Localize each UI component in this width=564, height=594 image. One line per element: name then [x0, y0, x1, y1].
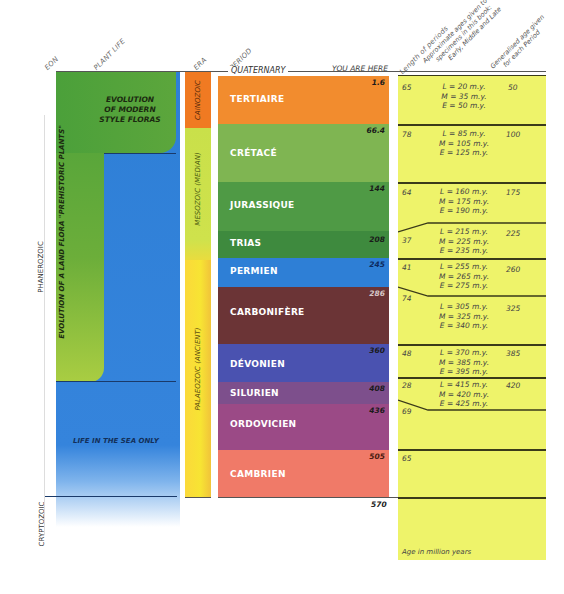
age-middle: M = 175 m.y. — [432, 197, 496, 207]
period-start-age: 144 — [369, 184, 385, 193]
age-late: L = 415 m.y. — [432, 380, 496, 390]
row-line-end — [398, 497, 546, 499]
period-start-age: 408 — [369, 384, 385, 393]
age-middle: M = 105 m.y. — [432, 139, 496, 149]
period-label: PERMIEN — [230, 266, 278, 276]
age-late: L = 160 m.y. — [432, 187, 496, 197]
period-start-age: 436 — [369, 406, 385, 415]
period-label: TERTIAIRE — [230, 94, 284, 104]
generalised-trias: 225 — [506, 229, 520, 238]
you-are-here-label: YOU ARE HERE — [332, 64, 388, 73]
period-silurien: SILURIEN 408 — [218, 382, 389, 404]
row-line-cambrien — [398, 449, 546, 451]
row-line-cretace — [398, 124, 546, 126]
age-early: E = 425 m.y. — [432, 399, 496, 409]
length-trias: 37 — [402, 236, 412, 245]
sea-only-text: LIFE IN THE SEA ONLY — [73, 437, 159, 445]
generalised-permien: 260 — [506, 265, 520, 274]
period-trias: TRIAS 208 — [218, 231, 389, 258]
ages-cretace: L = 85 m.y. M = 105 m.y. E = 125 m.y. — [432, 129, 496, 158]
period-carbonifere: CARBONIFÈRE 286 — [218, 287, 389, 344]
land-flora-divider — [56, 381, 176, 382]
row-line-jurassique — [398, 182, 546, 184]
era-mesozoic-label: MESOZOIC (MEDIAN) — [194, 139, 202, 239]
length-tertiaire: 65 — [402, 83, 412, 92]
eon-line — [44, 115, 45, 535]
period-label: SILURIEN — [230, 388, 279, 398]
footer-note: Age in million years — [402, 548, 471, 556]
period-start-age: 505 — [369, 452, 385, 461]
length-silurien: 28 — [402, 381, 412, 390]
generalised-carbonifere: 325 — [506, 304, 520, 313]
ages-silurien: L = 415 m.y. M = 420 m.y. E = 425 m.y. — [432, 380, 496, 409]
ages-jurassique: L = 160 m.y. M = 175 m.y. E = 190 m.y. — [432, 187, 496, 216]
generalised-devonien: 385 — [506, 349, 520, 358]
header-eon: EON — [43, 55, 60, 72]
ages-permien: L = 255 m.y. M = 265 m.y. E = 275 m.y. — [432, 262, 496, 291]
period-bottom-line — [218, 497, 398, 498]
length-permien: 41 — [402, 263, 412, 272]
length-carbonifere: 74 — [402, 294, 412, 303]
period-label: JURASSIQUE — [230, 200, 295, 210]
row-line-silurien — [398, 377, 546, 379]
modern-divider — [104, 153, 176, 154]
period-label: DÉVONIEN — [230, 359, 285, 369]
era-palaeozoic-label: PALAEOZOIC (ANCIENT) — [194, 314, 202, 424]
period-jurassique: JURASSIQUE 144 — [218, 182, 389, 231]
length-cretace: 78 — [402, 130, 412, 139]
age-middle: M = 35 m.y. — [432, 92, 496, 102]
length-ordovicien: 69 — [402, 407, 412, 416]
ages-trias: L = 215 m.y. M = 225 m.y. E = 235 m.y. — [432, 227, 496, 256]
modern-floras-line3: STYLE FLORAS — [85, 115, 175, 125]
modern-floras-line1: EVOLUTION — [85, 95, 175, 105]
period-tertiaire: TERTIAIRE 1.6 — [218, 76, 389, 124]
length-cambrien: 65 — [402, 454, 412, 463]
age-middle: M = 385 m.y. — [432, 358, 496, 368]
age-late: L = 215 m.y. — [432, 227, 496, 237]
period-cambrien: CAMBRIEN 505 — [218, 450, 389, 497]
ages-tertiaire: L = 20 m.y. M = 35 m.y. E = 50 m.y. — [432, 82, 496, 111]
period-ordovicien: ORDOVICIEN 436 — [218, 404, 389, 450]
period-label: CARBONIFÈRE — [230, 307, 305, 317]
period-start-age: 360 — [369, 346, 385, 355]
age-late: L = 370 m.y. — [432, 348, 496, 358]
generalised-cretace: 100 — [506, 130, 520, 139]
row-line-permien — [398, 258, 546, 260]
end-age-label: 570 — [371, 500, 387, 509]
modern-floras-text: EVOLUTION OF MODERN STYLE FLORAS — [85, 95, 175, 125]
period-start-age: 1.6 — [372, 78, 385, 87]
cryptozoic-divider — [44, 496, 177, 497]
modern-floras-line2: OF MODERN — [85, 105, 175, 115]
period-label: ORDOVICIEN — [230, 419, 296, 429]
generalised-jurassique: 175 — [506, 188, 520, 197]
age-early: E = 190 m.y. — [432, 206, 496, 216]
era-bottom-line — [185, 497, 211, 498]
age-early: E = 340 m.y. — [432, 321, 496, 331]
age-early: E = 235 m.y. — [432, 246, 496, 256]
age-middle: M = 265 m.y. — [432, 272, 496, 282]
generalised-tertiaire: 50 — [508, 83, 518, 92]
age-late: L = 305 m.y. — [432, 302, 496, 312]
length-devonien: 48 — [402, 349, 412, 358]
age-middle: M = 420 m.y. — [432, 390, 496, 400]
era-cainozoic-label: CAINOZOIC — [194, 70, 202, 130]
period-label: CRÉTACÉ — [230, 148, 277, 158]
ages-carbonifere: L = 305 m.y. M = 325 m.y. E = 340 m.y. — [432, 302, 496, 331]
header-generalised-line1: Generalised age given — [489, 13, 546, 70]
period-start-age: 245 — [369, 260, 385, 269]
age-early: E = 125 m.y. — [432, 148, 496, 158]
length-jurassique: 64 — [402, 188, 412, 197]
period-start-age: 66.4 — [366, 126, 385, 135]
age-middle: M = 225 m.y. — [432, 237, 496, 247]
period-start-age: 208 — [369, 235, 385, 244]
header-plant-life: PLANT LIFE — [92, 37, 127, 72]
age-late: L = 255 m.y. — [432, 262, 496, 272]
land-flora-text: EVOLUTION OF A LAND FLORA "PREHISTORIC P… — [58, 112, 66, 352]
ages-devonien: L = 370 m.y. M = 385 m.y. E = 395 m.y. — [432, 348, 496, 377]
age-middle: M = 325 m.y. — [432, 312, 496, 322]
period-devonien: DÉVONIEN 360 — [218, 344, 389, 382]
generalised-silurien: 420 — [506, 381, 520, 390]
age-early: E = 395 m.y. — [432, 367, 496, 377]
quaternary-label: QUATERNARY — [228, 66, 288, 75]
age-early: E = 50 m.y. — [432, 101, 496, 111]
